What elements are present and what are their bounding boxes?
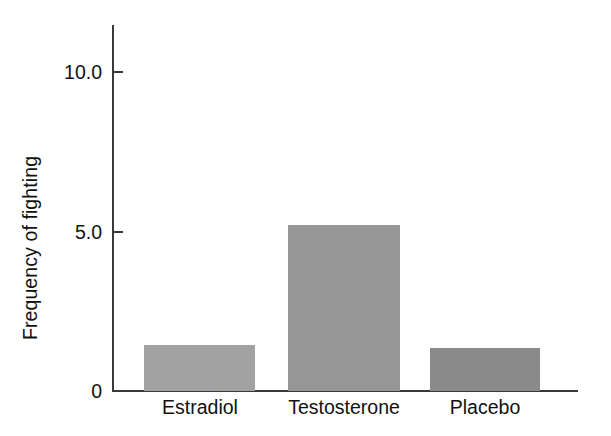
bar-estradiol [144,345,255,391]
y-tick-mark-10 [112,71,123,73]
y-tick-mark-5 [112,231,123,233]
y-tick-label-10: 10.0 [42,61,102,84]
y-axis-line [112,25,114,392]
bar-placebo [430,348,540,391]
x-tick-label-testosterone: Testosterone [268,396,420,419]
x-tick-label-estradiol: Estradiol [124,396,276,419]
y-tick-label-0: 0 [42,380,102,403]
bar-testosterone [288,225,400,391]
y-tick-label-5: 5.0 [42,221,102,244]
x-tick-label-placebo: Placebo [409,396,561,419]
bar-chart-figure: Frequency of fighting 10.0 5.0 0 Estradi… [0,0,611,436]
